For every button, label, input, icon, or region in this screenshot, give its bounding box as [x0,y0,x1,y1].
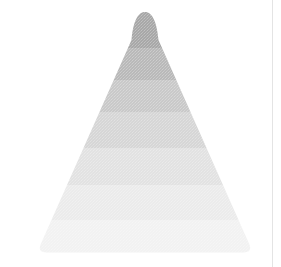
pyramid-texture-overlay [0,0,281,267]
panel-divider [272,0,273,267]
figure-canvas: Pyramid [0,0,281,267]
pyramid-diagram [0,0,281,267]
pyramid-svg [0,0,281,267]
